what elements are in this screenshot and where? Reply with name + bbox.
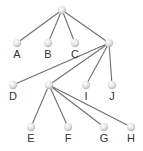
node-circle-icon	[27, 123, 35, 131]
edge-n2-H	[49, 85, 131, 127]
edge-n2-E	[31, 85, 49, 127]
node-n2	[45, 81, 53, 89]
edge-n1-n2	[49, 43, 109, 85]
node-n1	[105, 39, 113, 47]
node-circle-icon	[100, 123, 108, 131]
node-circle-icon	[45, 81, 53, 89]
tree-nodes: ABCDIJEFGH	[9, 6, 135, 144]
node-circle-icon	[58, 6, 66, 14]
node-label: A	[13, 48, 21, 60]
node-circle-icon	[64, 123, 72, 131]
node-circle-icon	[127, 123, 135, 131]
node-D: D	[9, 81, 17, 102]
node-circle-icon	[44, 39, 52, 47]
node-A: A	[13, 39, 22, 60]
node-circle-icon	[82, 81, 90, 89]
node-circle-icon	[13, 39, 21, 47]
tree-edges	[13, 10, 131, 127]
node-H: H	[127, 123, 135, 144]
node-label: H	[127, 132, 135, 144]
node-label: J	[109, 90, 115, 102]
node-label: B	[44, 48, 51, 60]
node-label: F	[65, 132, 72, 144]
tree-diagram: ABCDIJEFGH	[0, 0, 143, 151]
node-label: C	[71, 48, 79, 60]
edge-n2-G	[49, 85, 104, 127]
node-E: E	[27, 123, 35, 144]
node-I: I	[82, 81, 90, 102]
node-label: G	[100, 132, 109, 144]
edge-n1-I	[86, 43, 109, 85]
node-circle-icon	[108, 81, 116, 89]
node-circle-icon	[9, 81, 17, 89]
edge-n1-J	[109, 43, 112, 85]
node-B: B	[44, 39, 52, 60]
node-label: E	[27, 132, 34, 144]
edge-n2-F	[49, 85, 68, 127]
node-F: F	[64, 123, 72, 144]
node-label: D	[9, 90, 17, 102]
node-label: I	[84, 90, 87, 102]
node-root	[58, 6, 66, 14]
edge-n1-D	[13, 43, 109, 85]
node-G: G	[100, 123, 109, 144]
node-J: J	[108, 81, 116, 102]
node-circle-icon	[71, 39, 79, 47]
node-C: C	[71, 39, 79, 60]
node-circle-icon	[105, 39, 113, 47]
